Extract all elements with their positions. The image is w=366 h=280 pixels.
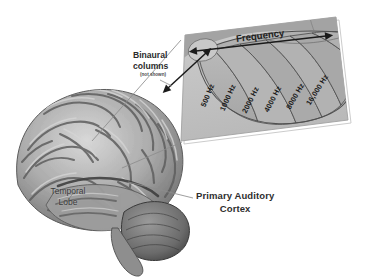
auditory-cortex-figure xyxy=(0,0,366,280)
